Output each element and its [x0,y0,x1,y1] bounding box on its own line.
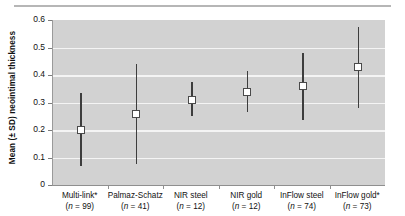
x-axis-labels: Multi-link*(n = 99)Palmaz-Schatz(n = 41)… [52,190,385,216]
x-axis-category-label: NIR steel(n = 12) [163,190,219,212]
y-axis-tick-label: 0 [40,179,45,189]
y-axis-ticks: 00.10.20.30.40.50.6 [0,20,52,185]
x-axis-tick-mark [330,185,331,189]
x-axis-category-label: InFlow gold*(n = 73) [330,190,386,212]
mean-marker [132,110,140,118]
x-axis-category-label: Multi-link*(n = 99) [52,190,108,212]
gridline [53,158,385,160]
gridline [53,103,385,105]
plot-area [52,20,385,185]
gridline [53,130,385,132]
category-name: InFlow gold* [330,190,386,201]
mean-marker [77,126,85,134]
top-divider-rule [14,5,391,7]
x-axis-tick-mark [219,185,220,189]
x-axis-category-label: Palmaz-Schatz(n = 41) [108,190,164,212]
gridline [53,48,385,50]
x-axis-tick-mark [108,185,109,189]
category-sample-size: (n = 73) [330,201,386,212]
x-axis-category-label: InFlow steel(n = 74) [274,190,330,212]
y-axis-tick-label: 0.4 [33,69,45,79]
category-sample-size: (n = 41) [108,201,164,212]
mean-marker [354,63,362,71]
category-name: Multi-link* [52,190,108,201]
x-axis-category-label: NIR gold(n = 12) [219,190,275,212]
category-name: InFlow steel [274,190,330,201]
chart-figure: Mean (± SD) neointimal thickness 00.10.2… [0,0,405,216]
y-axis-tick-label: 0.1 [33,152,45,162]
category-sample-size: (n = 12) [163,201,219,212]
category-sample-size: (n = 12) [219,201,275,212]
gridline [53,75,385,77]
category-name: Palmaz-Schatz [108,190,164,201]
y-axis-tick-label: 0.6 [33,14,45,24]
category-sample-size: (n = 74) [274,201,330,212]
y-axis-tick-label: 0.3 [33,97,45,107]
mean-marker [299,82,307,90]
y-axis-tick-label: 0.2 [33,124,45,134]
mean-marker [188,96,196,104]
category-sample-size: (n = 99) [52,201,108,212]
category-name: NIR gold [219,190,275,201]
y-axis-tick-label: 0.5 [33,42,45,52]
x-axis-tick-mark [163,185,164,189]
category-name: NIR steel [163,190,219,201]
x-axis-tick-mark [274,185,275,189]
mean-marker [243,88,251,96]
